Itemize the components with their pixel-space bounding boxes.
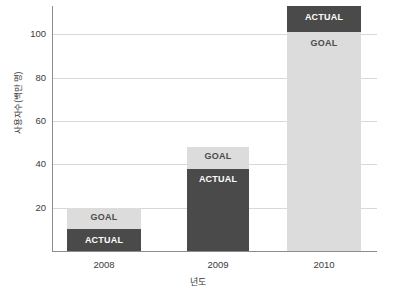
bar-label-actual-2010: ACTUAL: [305, 13, 343, 22]
bar-label-goal-2008: GOAL: [91, 213, 118, 222]
bar-segment-goal-2010[interactable]: GOAL: [287, 32, 361, 251]
x-tick-label-2008: 2008: [67, 259, 141, 270]
y-axis-title: 사용자수(백만 명): [11, 38, 23, 168]
bar-group-2009[interactable]: GOAL ACTUAL: [187, 147, 249, 251]
x-axis-line: [52, 251, 377, 252]
x-tick-label-2009: 2009: [187, 259, 249, 270]
y-axis-line: [52, 6, 53, 252]
y-tick-label-80: 80: [18, 73, 46, 83]
bar-group-2008[interactable]: GOAL ACTUAL: [67, 208, 141, 251]
bar-group-2010[interactable]: ACTUAL GOAL: [287, 6, 361, 251]
bar-segment-actual-2008[interactable]: ACTUAL: [67, 229, 141, 251]
y-tick-label-60: 60: [18, 116, 46, 126]
bar-chart: 사용자수(백만 명) 20 40 60 80 100 GOAL ACTUAL 2…: [0, 0, 396, 294]
bar-label-goal-2010: GOAL: [311, 39, 338, 48]
y-tick-label-40: 40: [18, 159, 46, 169]
y-tick-label-100: 100: [18, 29, 46, 39]
plot-area: 20 40 60 80 100 GOAL ACTUAL 2008 GOAL AC…: [52, 6, 377, 251]
y-tick-label-20: 20: [18, 203, 46, 213]
bar-label-actual-2008: ACTUAL: [85, 236, 123, 245]
bar-label-goal-2009: GOAL: [205, 152, 232, 161]
bar-segment-actual-2009[interactable]: ACTUAL: [187, 169, 249, 251]
x-axis-title: 년도: [0, 275, 396, 288]
bar-label-actual-2009: ACTUAL: [199, 175, 237, 184]
x-tick-label-2010: 2010: [287, 259, 361, 270]
